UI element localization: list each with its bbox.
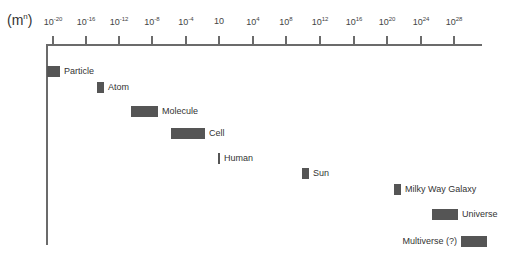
x-axis-tick-label: 1028 bbox=[446, 16, 463, 27]
range-bar-label: Particle bbox=[64, 66, 94, 77]
range-bar bbox=[432, 209, 458, 220]
x-axis-line bbox=[46, 44, 482, 46]
x-axis-tick-label: 10-20 bbox=[44, 16, 63, 27]
range-bar-label: Multiverse (?) bbox=[402, 236, 457, 247]
range-bar bbox=[171, 128, 205, 139]
range-bar bbox=[47, 66, 60, 77]
range-bar bbox=[394, 184, 401, 195]
range-bar-label: Atom bbox=[108, 82, 129, 93]
range-bar-label: Cell bbox=[209, 128, 225, 139]
range-bar-label: Molecule bbox=[162, 106, 198, 117]
x-axis-tick-label: 10-16 bbox=[77, 16, 96, 27]
x-axis-tick-label: 108 bbox=[279, 16, 292, 27]
range-bar-label: Milky Way Galaxy bbox=[405, 184, 476, 195]
x-axis-tick-label: 10 bbox=[214, 16, 224, 26]
x-axis-tick-label: 104 bbox=[246, 16, 259, 27]
x-axis-tick-label: 1012 bbox=[312, 16, 329, 27]
range-bar bbox=[97, 82, 104, 93]
x-axis-tick-label: 1016 bbox=[346, 16, 363, 27]
range-bar-label: Universe bbox=[462, 209, 498, 220]
range-bar bbox=[131, 106, 158, 117]
x-axis-tick-label: 10-12 bbox=[110, 16, 129, 27]
x-axis-tick-label: 1024 bbox=[413, 16, 430, 27]
range-bar bbox=[461, 236, 487, 247]
range-bar bbox=[302, 168, 309, 179]
unit-label: (mn) bbox=[7, 12, 32, 28]
x-axis-tick-label: 10-8 bbox=[144, 16, 159, 27]
range-bar-label: Sun bbox=[313, 168, 329, 179]
x-axis-tick-label: 10-4 bbox=[178, 16, 193, 27]
range-bar-label: Human bbox=[224, 153, 253, 164]
x-axis-tick-label: 1020 bbox=[379, 16, 396, 27]
range-bar bbox=[218, 153, 220, 164]
